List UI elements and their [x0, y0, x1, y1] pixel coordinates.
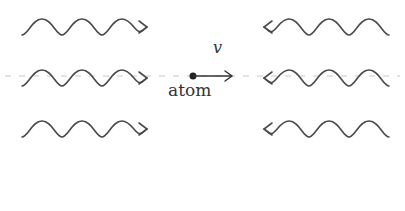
right-waves	[264, 19, 389, 137]
wave-right-top	[264, 19, 389, 35]
wave-right-bottom	[264, 121, 389, 137]
wave-left-bottom	[22, 121, 147, 137]
atom-label: atom	[168, 80, 211, 100]
diagram-canvas	[0, 0, 405, 211]
left-waves	[22, 19, 147, 137]
wave-right-middle	[264, 70, 389, 86]
wave-left-middle	[22, 70, 147, 86]
velocity-label: v	[213, 38, 222, 57]
wave-left-top	[22, 19, 147, 35]
